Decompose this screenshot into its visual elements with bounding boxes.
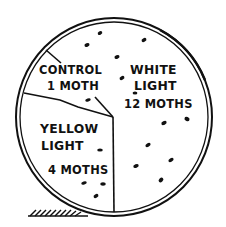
white-section-count: 12 MOTHS bbox=[124, 98, 193, 110]
yellow-section-title-line1: YELLOW bbox=[40, 122, 99, 135]
yellow-section-count: 4 MOTHS bbox=[48, 164, 108, 176]
white-section-title-line2: LIGHT bbox=[134, 79, 177, 92]
moth-trap-diagram: CONTROL 1 MOTH WHITE LIGHT 12 MOTHS YELL… bbox=[0, 0, 226, 227]
trap-circle-drawing bbox=[0, 0, 226, 227]
yellow-section-title-line2: LIGHT bbox=[41, 139, 84, 152]
white-section-title-line1: WHITE bbox=[130, 63, 177, 76]
ground-hatching bbox=[28, 210, 88, 216]
moths-control bbox=[85, 98, 91, 103]
control-section-count: 1 MOTH bbox=[47, 80, 99, 92]
control-section-title: CONTROL bbox=[39, 64, 102, 76]
